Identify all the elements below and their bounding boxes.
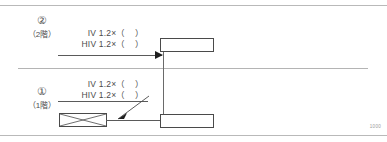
riser-diagram: ② （2階） IV 1.2×（ ） HIV 1.2×（ ） ① （1階） IV … xyxy=(0,0,387,142)
top-border-rule xyxy=(0,5,387,6)
equipment-box-floor-2 xyxy=(160,38,214,52)
corner-code-label: 1000 xyxy=(370,124,381,130)
floor-marker-2-number: ② xyxy=(22,14,62,27)
distribution-board-symbol-icon xyxy=(59,113,107,127)
vertical-riser-line xyxy=(163,52,164,115)
cable-spec-floor-1-iv: IV 1.2×（ ） xyxy=(52,79,144,90)
feeder-arrowhead-icon xyxy=(155,51,163,59)
feeder-line-floor-2 xyxy=(58,55,162,56)
floor-divider-line xyxy=(18,68,368,69)
leader-arrow-to-board-icon xyxy=(112,96,150,122)
cable-spec-floor-2-iv: IV 1.2×（ ） xyxy=(52,28,144,39)
cable-spec-floor-2-hiv: HIV 1.2×（ ） xyxy=(52,39,144,50)
equipment-box-floor-1 xyxy=(160,114,214,128)
floor-marker-1-name: （1階） xyxy=(22,100,62,111)
cable-spec-floor-2: IV 1.2×（ ） HIV 1.2×（ ） xyxy=(52,28,144,50)
bottom-border-rule xyxy=(0,135,387,136)
